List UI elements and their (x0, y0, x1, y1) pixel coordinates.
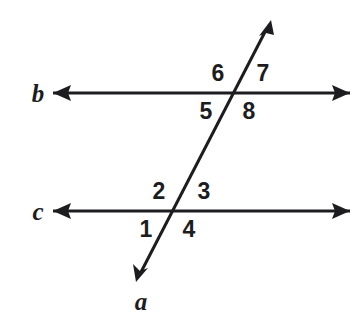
line-label-b: b (32, 81, 45, 106)
geometry-canvas (0, 0, 363, 319)
angle-label-3: 3 (198, 180, 211, 203)
line-c (53, 203, 350, 219)
angle-label-8: 8 (243, 100, 256, 123)
line-a-transversal (133, 20, 274, 282)
line-a-top-arrowhead (259, 20, 274, 36)
angle-label-5: 5 (200, 100, 213, 123)
angle-label-1: 1 (140, 218, 153, 241)
angle-label-7: 7 (257, 62, 270, 85)
angle-label-6: 6 (212, 62, 225, 85)
angle-label-4: 4 (183, 218, 196, 241)
line-a-bottom-arrowhead (133, 264, 148, 282)
line-label-c: c (32, 199, 43, 224)
line-label-a: a (135, 289, 148, 314)
geometry-figure: b c a 6 7 5 8 2 3 1 4 (0, 0, 363, 319)
angle-label-2: 2 (153, 180, 166, 203)
line-a-segment (140, 30, 266, 274)
